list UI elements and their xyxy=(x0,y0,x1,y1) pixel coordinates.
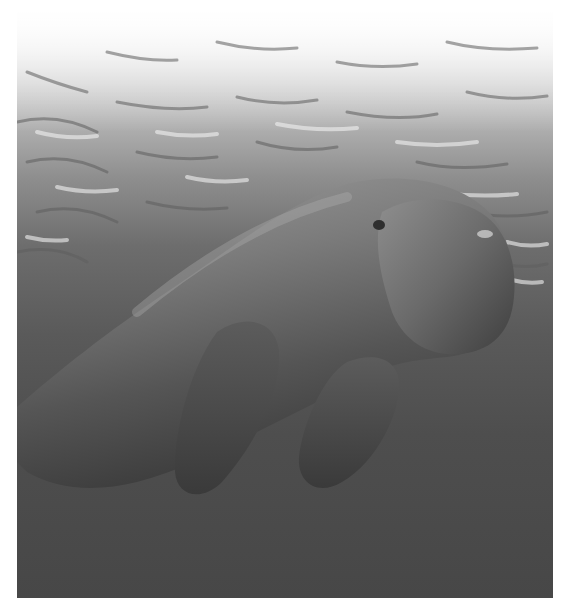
dugong-photo xyxy=(17,12,553,598)
dugong-eye xyxy=(373,220,385,230)
snout-highlight xyxy=(477,230,493,238)
water-surface-glow xyxy=(17,12,553,132)
dugong-photo-artwork xyxy=(17,12,553,598)
